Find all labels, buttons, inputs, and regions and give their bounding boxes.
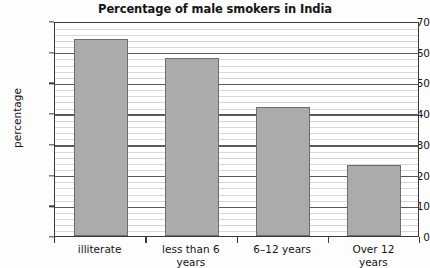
chart-title: Percentage of male smokers in India — [0, 2, 430, 16]
x-axis-label-2: less than 6years — [145, 243, 236, 268]
bar-1 — [74, 39, 128, 236]
minor-gridline — [55, 29, 418, 30]
x-axis-label-4: Over 12years — [328, 243, 419, 268]
bar-2 — [165, 58, 219, 236]
bar-chart: Percentage of male smokers in India perc… — [0, 0, 430, 268]
x-tick-mark — [419, 237, 420, 243]
x-label-line: years — [145, 256, 236, 268]
x-axis-label-1: illiterate — [54, 243, 145, 256]
x-axis-label-3: 6–12 years — [237, 243, 328, 256]
bar-3 — [256, 107, 310, 236]
x-label-line: less than 6 — [145, 243, 236, 256]
x-label-line: 6–12 years — [237, 243, 328, 256]
x-label-line: illiterate — [54, 243, 145, 256]
x-label-line: years — [328, 256, 419, 268]
plot-area — [54, 22, 419, 237]
minor-gridline — [55, 35, 418, 36]
bar-4 — [347, 165, 401, 236]
y-axis-label: percentage — [11, 73, 23, 163]
x-label-line: Over 12 — [328, 243, 419, 256]
